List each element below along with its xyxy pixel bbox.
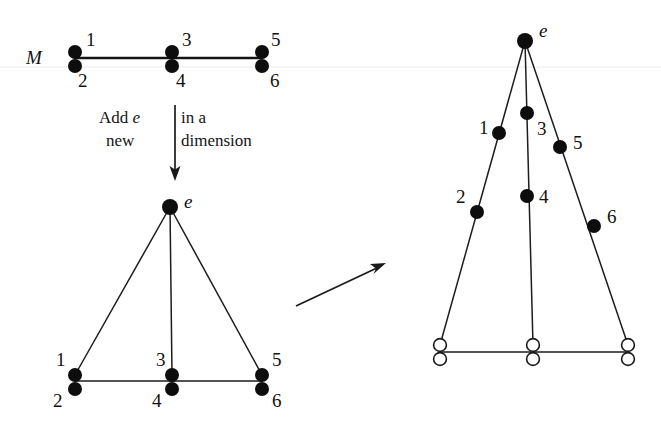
- proj-point-4-dot[interactable]: [520, 189, 534, 203]
- proj-base-point-4[interactable]: [527, 353, 540, 366]
- proj-point-3-dot[interactable]: [520, 106, 534, 120]
- proj-point-2-dot[interactable]: [470, 205, 484, 219]
- panel-projected-configuration: e 1 3 5 2 4 6: [434, 20, 635, 365]
- proj-base-point-2[interactable]: [434, 353, 447, 366]
- point-5-dot[interactable]: [255, 45, 269, 59]
- transform-arrow-head: [370, 263, 386, 274]
- point-1-dot[interactable]: [68, 45, 82, 59]
- cone-point-label-3: 3: [156, 349, 166, 370]
- point-label-4: 4: [176, 70, 186, 91]
- proj-point-label-5: 5: [573, 132, 583, 153]
- proj-point-5-dot[interactable]: [553, 140, 567, 154]
- cone-point-4-dot[interactable]: [165, 382, 179, 396]
- proj-point-label-2: 2: [456, 186, 466, 207]
- cone-point-5-dot[interactable]: [255, 368, 269, 382]
- proj-point-label-1: 1: [479, 117, 489, 138]
- proj-point-1-dot[interactable]: [492, 126, 506, 140]
- caption-add-word: Add: [99, 108, 133, 127]
- cone-edge-e-5: [170, 207, 262, 375]
- caption-line-1: Add e: [99, 108, 141, 127]
- proj-base-point-1[interactable]: [434, 339, 447, 352]
- cone-point-6-dot[interactable]: [255, 382, 269, 396]
- caption-line-2-left: new: [106, 131, 135, 150]
- caption-e-italic: e: [133, 108, 141, 127]
- cone-point-label-2: 2: [53, 390, 63, 411]
- proj-point-label-3: 3: [537, 118, 547, 139]
- proj-point-label-4: 4: [539, 186, 549, 207]
- point-label-2: 2: [78, 70, 88, 91]
- point-label-6: 6: [270, 70, 280, 91]
- cone-edge-e-3: [170, 207, 172, 375]
- proj-point-e-dot[interactable]: [517, 33, 533, 49]
- transform-arrow-shaft: [296, 267, 379, 306]
- caption-line-1-right: in a: [181, 108, 206, 127]
- point-label-3: 3: [182, 29, 192, 50]
- caption-add-e: Add e in a new dimension: [99, 105, 252, 181]
- proj-point-6-dot[interactable]: [587, 219, 601, 233]
- cone-point-e-dot[interactable]: [162, 199, 178, 215]
- point-3-dot[interactable]: [165, 45, 179, 59]
- cone-point-3-dot[interactable]: [165, 368, 179, 382]
- proj-label-e: e: [539, 20, 547, 41]
- cone-point-2-dot[interactable]: [68, 382, 82, 396]
- proj-point-label-6: 6: [607, 206, 617, 227]
- point-label-1: 1: [86, 29, 96, 50]
- cone-label-e: e: [184, 191, 192, 212]
- cone-point-label-5: 5: [272, 349, 282, 370]
- caption-line-2-right: dimension: [181, 131, 252, 150]
- panel-cone-over-m: e 1 2 3 4 5 6: [53, 191, 282, 411]
- cone-point-label-4: 4: [152, 390, 162, 411]
- point-label-5: 5: [271, 29, 281, 50]
- matroid-label-m: M: [25, 47, 43, 68]
- proj-base-point-5[interactable]: [622, 339, 635, 352]
- cone-point-label-1: 1: [56, 349, 66, 370]
- math-figure: M 1 2 3 4 5 6 Add e in a new dimension: [0, 0, 661, 424]
- cone-point-1-dot[interactable]: [68, 368, 82, 382]
- panel-matroid-m: M 1 2 3 4 5 6: [25, 29, 281, 91]
- proj-edge-e-left: [440, 41, 525, 345]
- figure-canvas: M 1 2 3 4 5 6 Add e in a new dimension: [0, 0, 661, 424]
- proj-base-point-6[interactable]: [622, 353, 635, 366]
- transform-arrow: [296, 263, 386, 306]
- cone-point-label-6: 6: [272, 390, 282, 411]
- point-6-dot[interactable]: [255, 59, 269, 73]
- proj-base-point-3[interactable]: [527, 339, 540, 352]
